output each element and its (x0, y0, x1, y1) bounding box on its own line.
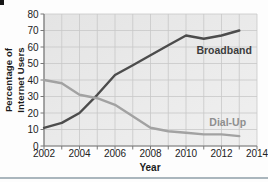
x-tick-label: 2006 (104, 148, 127, 159)
x-tick-label: 2014 (246, 148, 268, 159)
x-axis-label: Year (139, 162, 160, 173)
y-tick-label: 30 (27, 91, 39, 102)
y-tick-label: 40 (27, 75, 39, 86)
y-tick-label: 60 (27, 42, 39, 53)
x-tick-label: 2004 (68, 148, 91, 159)
x-tick-label: 2008 (139, 148, 162, 159)
y-tick-label: 10 (27, 124, 39, 135)
line-chart: BroadbandDial-Up200220042006200820102012… (0, 0, 268, 182)
series-label-broadband: Broadband (196, 44, 251, 56)
bottom-divider (0, 177, 268, 179)
figure: BroadbandDial-Up200220042006200820102012… (0, 0, 268, 182)
y-tick-label: 0 (33, 141, 39, 152)
y-tick-label: 80 (27, 9, 39, 20)
y-tick-label: 70 (27, 25, 39, 36)
series-label-dial-up: Dial-Up (209, 116, 246, 128)
y-tick-label: 50 (27, 58, 39, 69)
y-axis-label-line1: Percentage of (3, 48, 14, 112)
y-axis-label: Percentage of Internet Users (3, 20, 29, 140)
y-axis-label-line2: Internet Users (15, 47, 26, 112)
x-tick-label: 2010 (175, 148, 198, 159)
y-tick-label: 20 (27, 108, 39, 119)
x-tick-label: 2012 (210, 148, 233, 159)
